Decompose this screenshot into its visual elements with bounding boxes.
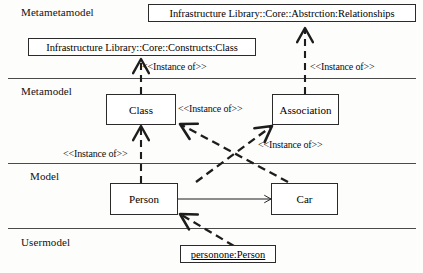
edge-label-instance-of-relationships: <<Instance of>> bbox=[310, 61, 374, 72]
node-person[interactable]: Person bbox=[110, 183, 178, 215]
node-association[interactable]: Association bbox=[272, 94, 339, 125]
edge-label-instance-of-constructs: <<Instance of>> bbox=[142, 61, 206, 72]
node-class[interactable]: Class bbox=[106, 94, 176, 125]
edge-label-instance-of-link-to-association: <<Instance of>> bbox=[258, 139, 322, 150]
node-relationships-package[interactable]: Infrastructure Library::Core::Abstrction… bbox=[148, 4, 416, 22]
edge-personone-to-person bbox=[180, 214, 234, 246]
instance-name-label: personone:Person bbox=[191, 249, 266, 260]
metamodel-layers-diagram: Metametamodel Metamodel Model Usermodel … bbox=[0, 0, 423, 273]
layer-label-metametamodel: Metametamodel bbox=[21, 6, 94, 18]
node-constructs-class-package[interactable]: Infrastructure Library::Core::Constructs… bbox=[28, 38, 256, 56]
node-personone-instance[interactable]: personone:Person bbox=[180, 245, 276, 263]
edge-label-instance-of-car-to-class: <<Instance of>> bbox=[178, 103, 242, 114]
edge-association-link-to-association bbox=[196, 126, 272, 182]
edge-label-instance-of-person-to-class: <<Instance of>> bbox=[63, 148, 127, 159]
layer-label-model: Model bbox=[30, 170, 59, 182]
edge-car-to-class bbox=[180, 124, 288, 182]
node-car[interactable]: Car bbox=[271, 183, 338, 215]
layer-label-metamodel: Metamodel bbox=[21, 85, 72, 97]
layer-label-usermodel: Usermodel bbox=[21, 236, 70, 248]
